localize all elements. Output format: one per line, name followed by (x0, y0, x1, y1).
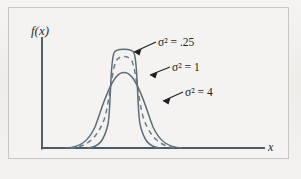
curve-label-variance-4: σ² = 4 (185, 87, 213, 99)
leader-arrow-variance-025 (134, 42, 156, 56)
normal-distribution-figure: f(x) x σ² = .25 σ² = 1 σ² = 4 (0, 0, 301, 179)
curve-variance-025 (88, 49, 160, 148)
leader-arrow-variance-1 (150, 67, 170, 79)
x-axis-label: x (268, 141, 273, 153)
curve-label-variance-1: σ² = 1 (172, 62, 200, 74)
curve-label-variance-025: σ² = .25 (158, 37, 194, 49)
curve-variance-4 (66, 73, 182, 149)
y-axis-label: f(x) (31, 24, 49, 37)
leader-arrow-variance-4 (163, 92, 183, 105)
